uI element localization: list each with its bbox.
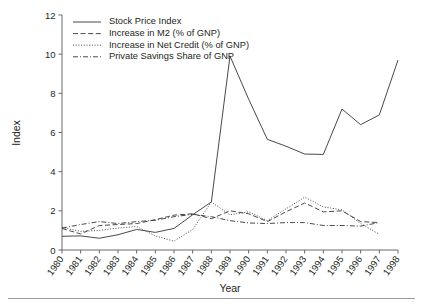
x-tick-label: 1995 (325, 254, 346, 278)
x-tick-label: 1984 (119, 254, 140, 278)
x-tick-label: 1988 (194, 254, 215, 278)
x-tick-label: 1994 (306, 254, 327, 278)
y-tick-label: 6 (50, 127, 55, 138)
x-tick-label: 1998 (381, 254, 402, 278)
y-tick-label: 4 (50, 166, 55, 177)
series-line-2 (62, 197, 379, 241)
x-tick-label: 1989 (213, 254, 234, 278)
series-group (62, 56, 398, 241)
x-tick-label: 1981 (63, 254, 84, 278)
x-tick-label: 1997 (362, 254, 383, 278)
x-tick-label: 1986 (157, 254, 178, 278)
x-tick-label: 1980 (45, 254, 66, 278)
series-line-0 (62, 56, 398, 238)
footer-rule (8, 298, 415, 299)
x-tick-label: 1993 (287, 254, 308, 278)
line-chart: 0246810121980198119821983198419851986198… (0, 0, 423, 306)
x-tick-label: 1987 (175, 254, 196, 278)
y-axis: 024681012 (45, 10, 62, 256)
x-tick-label: 1996 (343, 254, 364, 278)
legend-label-1: Increase in M2 (% of GNP) (109, 28, 220, 38)
x-tick-label: 1992 (269, 254, 290, 278)
x-tick-label: 1982 (82, 254, 103, 278)
x-tick-label: 1990 (231, 254, 252, 278)
x-axis-title: Year (219, 282, 241, 294)
y-tick-label: 8 (50, 88, 55, 99)
legend-label-2: Increase in Net Credit (% of GNP) (109, 40, 249, 50)
legend: Stock Price IndexIncrease in M2 (% of GN… (73, 16, 249, 61)
y-tick-label: 0 (50, 245, 55, 256)
y-tick-label: 12 (45, 10, 56, 21)
legend-label-3: Private Savings Share of GNP (109, 51, 234, 61)
x-tick-label: 1991 (250, 254, 271, 278)
y-tick-label: 2 (50, 205, 55, 216)
y-axis-title: Index (10, 119, 22, 145)
x-tick-label: 1983 (101, 254, 122, 278)
series-line-3 (62, 214, 379, 228)
legend-label-0: Stock Price Index (109, 16, 182, 26)
chart-figure: 0246810121980198119821983198419851986198… (0, 0, 423, 306)
x-tick-label: 1985 (138, 254, 159, 278)
y-tick-label: 10 (45, 49, 56, 60)
x-axis: 1980198119821983198419851986198719881989… (45, 250, 402, 277)
